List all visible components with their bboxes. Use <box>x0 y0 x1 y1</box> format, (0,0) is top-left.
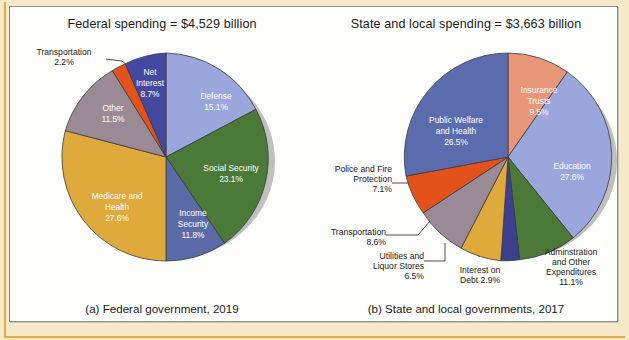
label-utilities-1: Utilities and <box>348 251 424 261</box>
label-interest-2: Debt 2.9% <box>445 275 515 285</box>
label-social-security-pct: 23.1% <box>219 174 243 184</box>
panel-federal: Federal spending = $4,529 billion <box>10 7 314 322</box>
label-income-security-2: Security <box>178 219 209 229</box>
label-other-pct: 11.5% <box>101 114 125 124</box>
label-police-fire-2: Protection <box>308 174 392 184</box>
label-police-fire: Police and Fire Protection 7.1% <box>308 164 392 194</box>
label-net-interest-2: Interest <box>136 78 165 88</box>
label-medicare-2: Health <box>105 202 130 212</box>
panel-state-caption: (b) State and local governments, 2017 <box>314 302 618 315</box>
federal-pie-svg: Defense 15.1% Social Security 23.1% Inco… <box>50 43 282 273</box>
label-net-interest-1: Net <box>143 67 157 77</box>
label-utilities-liquor: Utilities and Liquor Stores 6.5% <box>348 251 424 281</box>
label-federal-transportation: Transportation 2.2% <box>18 47 110 67</box>
label-interest-1: Interest on <box>445 265 515 275</box>
label-police-fire-1: Police and Fire <box>308 164 392 174</box>
label-state-transportation: Transportation 8.6% <box>308 227 386 247</box>
panel-state-title: State and local spending = $3,663 billio… <box>314 17 618 31</box>
label-income-security-1: Income <box>179 208 207 218</box>
label-income-security-pct: 11.8% <box>181 230 205 240</box>
label-interest-on-debt: Interest on Debt 2.9% <box>445 265 515 285</box>
label-administration-1: Adminstration <box>526 247 616 257</box>
label-public-welfare-pct: 26.5% <box>444 137 468 147</box>
panel-state-local: State and local spending = $3,663 billio… <box>314 7 618 322</box>
label-administration-2: and Other <box>526 257 616 267</box>
label-medicare-1: Medicare and <box>92 191 143 201</box>
label-federal-transportation-text: Transportation <box>18 47 110 57</box>
label-medicare-pct: 27.6% <box>105 213 129 223</box>
state-pie: Insurance Trusts 9.5% Education 27.6% Pu… <box>392 43 618 273</box>
label-insurance-1: Insurance <box>521 85 558 95</box>
panel-federal-title: Federal spending = $4,529 billion <box>10 17 314 31</box>
state-pie-svg: Insurance Trusts 9.5% Education 27.6% Pu… <box>392 43 618 273</box>
label-police-fire-pct: 7.1% <box>308 184 392 194</box>
label-other: Other <box>103 103 124 113</box>
figure-plate: Federal spending = $4,529 billion <box>9 6 618 322</box>
label-public-welfare-2: and Health <box>436 126 477 136</box>
label-administration: Adminstration and Other Expenditures 11.… <box>526 247 616 288</box>
label-public-welfare-1: Public Welfare <box>429 115 483 125</box>
label-state-transportation-pct: 8.6% <box>308 237 386 247</box>
label-utilities-pct: 6.5% <box>348 271 424 281</box>
label-education-pct: 27.6% <box>560 172 584 182</box>
figure-outer-frame: Federal spending = $4,529 billion <box>0 0 629 340</box>
label-administration-3: Expenditures <box>526 267 616 277</box>
label-net-interest-pct: 8.7% <box>140 89 160 99</box>
panel-federal-caption: (a) Federal government, 2019 <box>10 302 314 315</box>
label-federal-transportation-pct: 2.2% <box>18 57 110 67</box>
label-education: Education <box>553 161 591 171</box>
label-insurance-pct: 9.5% <box>529 107 549 117</box>
label-defense: Defense <box>200 91 232 101</box>
label-utilities-2: Liquor Stores <box>348 261 424 271</box>
label-defense-pct: 15.1% <box>204 102 228 112</box>
label-insurance-2: Trusts <box>528 96 551 106</box>
federal-pie: Defense 15.1% Social Security 23.1% Inco… <box>50 43 282 273</box>
label-administration-pct: 11.1% <box>526 277 616 287</box>
label-social-security: Social Security <box>203 163 259 173</box>
label-state-transportation-text: Transportation <box>308 227 386 237</box>
